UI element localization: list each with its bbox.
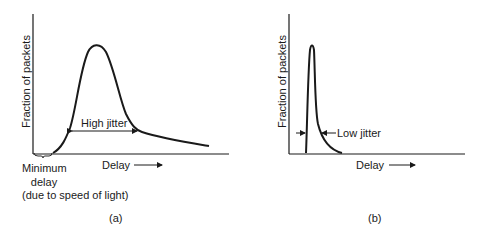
caption-a: (a)	[109, 212, 122, 224]
min-delay-label-line2: delay	[22, 176, 66, 188]
panel-a	[33, 14, 229, 165]
delay-distribution-curve-a	[53, 45, 209, 153]
y-axis-label-a: Fraction of packets	[20, 35, 32, 128]
high-jitter-label: High jitter	[81, 117, 127, 129]
y-axis-label-b: Fraction of packets	[276, 35, 288, 128]
panel-b	[289, 14, 465, 165]
low-jitter-label: Low jitter	[337, 127, 381, 139]
x-axis-label-a: Delay	[102, 159, 130, 171]
x-axis-label-b: Delay	[356, 159, 384, 171]
jitter-diagram	[0, 0, 481, 238]
min-delay-label-line3: (due to speed of light)	[22, 189, 128, 201]
caption-b: (b)	[368, 212, 381, 224]
min-delay-label-line1: Minimum	[22, 162, 66, 174]
